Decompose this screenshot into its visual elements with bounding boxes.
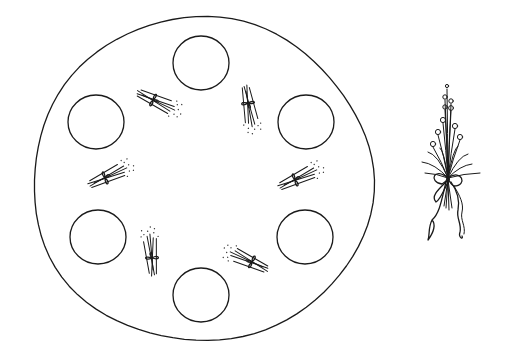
bow-sprigs — [85, 84, 328, 279]
place-circle-lower-left — [70, 210, 126, 264]
sprig-upper-right — [236, 84, 263, 136]
sprig-lower-left — [140, 226, 163, 277]
place-circle-bottom — [173, 268, 229, 322]
place-circle-upper-right — [278, 95, 334, 149]
place-circle-top — [173, 36, 229, 90]
flower-head-icon — [445, 84, 448, 87]
flower-head-icon — [449, 99, 453, 103]
flower-head-icon — [457, 134, 462, 139]
sprig-lower-right — [219, 241, 272, 279]
place-circle-lower-right — [277, 210, 333, 264]
flower-head-icon — [452, 123, 457, 128]
tied-bouquet — [422, 84, 480, 240]
tray-drawing — [0, 0, 509, 363]
sprig-left — [85, 156, 138, 194]
flower-head-icon — [430, 141, 435, 146]
sprig-right — [275, 158, 328, 196]
flower-head-icon — [440, 117, 445, 122]
sprig-upper-left — [133, 84, 186, 122]
bouquet — [422, 84, 480, 240]
flower-head-icon — [435, 129, 440, 134]
place-circle-upper-left — [68, 95, 124, 149]
flower-head-icon — [443, 95, 447, 99]
tray-outline — [35, 16, 375, 340]
round-tray — [35, 16, 375, 340]
illustration — [0, 0, 509, 363]
